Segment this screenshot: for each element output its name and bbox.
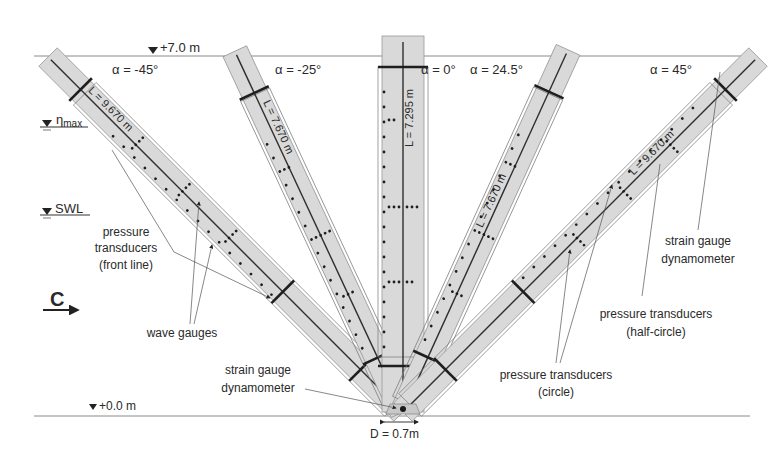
svg-text:+0.0 m: +0.0 m <box>99 399 136 413</box>
label-strain-gauge-left: strain gauge <box>225 363 291 377</box>
svg-text:+7.0 m: +7.0 m <box>160 40 200 55</box>
level-top-marker: +7.0 m <box>148 40 200 55</box>
pile-length-label: L = 7.295 m <box>403 89 415 147</box>
label-wave-gauges: wave gauges <box>146 326 218 340</box>
level-bottom-marker: +0.0 m <box>89 399 136 413</box>
label-pressure-transducers-circle-2: (circle) <box>538 385 574 399</box>
water-level-icon <box>42 120 52 127</box>
level-swl-marker: SWL <box>40 201 90 218</box>
label-pressure-transducers-half: pressure transducers <box>600 307 713 321</box>
angle-label-minus-25: α = -25° <box>275 62 321 77</box>
svg-text:D = 0.7m: D = 0.7m <box>370 427 419 441</box>
label-pressure-transducers-half-2: (half-circle) <box>626 325 685 339</box>
angle-label-minus-45: α = -45° <box>112 62 158 77</box>
strain-gauge-hub <box>400 406 406 412</box>
svg-text:ηmax: ηmax <box>56 112 82 129</box>
label-pressure-transducers-front: pressure <box>103 225 150 239</box>
svg-text:C: C <box>50 288 64 310</box>
angle-label-0: α = 0° <box>421 62 456 77</box>
label-pressure-transducers-front-3: (front line) <box>99 258 153 272</box>
diameter-dimension: D = 0.7m <box>370 422 419 441</box>
current-indicator: C <box>43 288 78 310</box>
level-eta-max-marker: ηmax <box>40 112 88 130</box>
pile-test-diagram: L = 9.670 m L = 7.670 m <box>0 0 777 461</box>
angle-label-45: α = 45° <box>650 62 692 77</box>
level-triangle-icon <box>89 404 97 410</box>
label-strain-gauge-right-2: dynamometer <box>661 252 734 266</box>
water-level-icon <box>42 208 52 215</box>
label-strain-gauge-left-2: dynamometer <box>221 381 294 395</box>
level-triangle-icon <box>148 47 158 54</box>
svg-text:SWL: SWL <box>55 201 83 216</box>
angle-label-24-5: α = 24.5° <box>470 62 523 77</box>
label-pressure-transducers-circle: pressure transducers <box>500 368 613 382</box>
label-pressure-transducers-front-2: transducers <box>95 241 158 255</box>
label-strain-gauge-right: strain gauge <box>665 234 731 248</box>
